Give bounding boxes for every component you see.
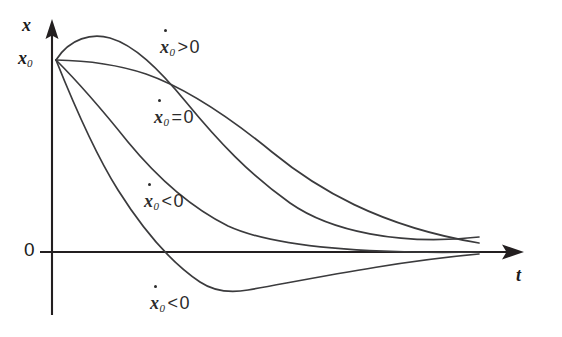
annotation-value-3: 0 — [174, 191, 185, 211]
annotation-subscript-3: 0 — [154, 200, 160, 212]
damped-response-figure: x x0 0 t x0>0 x0=0 x0<0 x0<0 — [0, 0, 562, 337]
y-axis-label: x — [22, 16, 31, 34]
annotation-operator-3: < — [160, 191, 174, 211]
annotation-subscript-1: 0 — [170, 46, 176, 58]
x0-base: x — [18, 48, 27, 68]
annotation-operator-2: = — [170, 107, 184, 127]
x0-subscript: 0 — [27, 57, 33, 69]
annotation-subscript-2: 0 — [164, 116, 170, 128]
annotation-subscript-4: 0 — [160, 302, 166, 314]
annotation-variable-4: x — [150, 294, 160, 312]
x-axis-label: t — [516, 266, 521, 284]
annotation-operator-1: > — [176, 37, 190, 57]
annotation-operator-4: < — [166, 293, 180, 313]
annotation-variable-3: x — [144, 192, 154, 210]
annotation-xdot-greater-than-zero: x0>0 — [160, 38, 200, 58]
curve-xdot-less-than-zero-large — [56, 60, 479, 292]
annotation-value-4: 0 — [180, 293, 191, 313]
annotation-value-2: 0 — [184, 107, 195, 127]
annotation-value-1: 0 — [190, 37, 201, 57]
annotation-xdot-less-than-zero-lower: x0<0 — [150, 294, 190, 314]
curve-xdot-equals-zero — [56, 60, 479, 243]
annotation-variable-2: x — [154, 108, 164, 126]
annotation-xdot-less-than-zero-upper: x0<0 — [144, 192, 184, 212]
annotation-variable-1: x — [160, 38, 170, 56]
curve-xdot-less-than-zero-small — [56, 60, 479, 252]
plot-canvas — [0, 0, 562, 337]
y-axis-initial-value-label: x0 — [18, 49, 33, 69]
annotation-xdot-equals-zero: x0=0 — [154, 108, 194, 128]
y-axis-zero-tick-label: 0 — [24, 240, 35, 259]
